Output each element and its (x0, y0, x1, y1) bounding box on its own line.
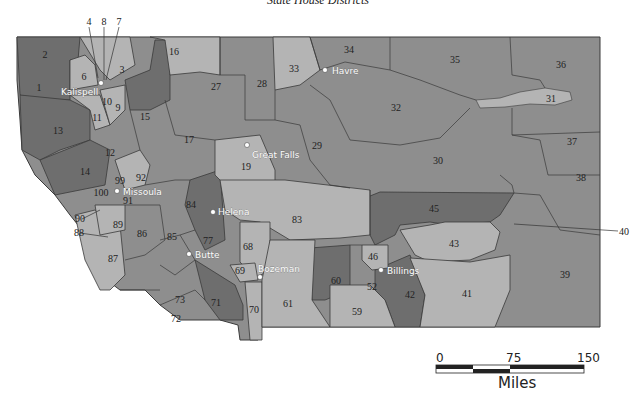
city-label: Havre (332, 66, 359, 76)
district-label: 11 (92, 112, 102, 123)
district-label: 87 (108, 253, 118, 264)
district-label: 77 (203, 235, 213, 246)
district-label: 28 (257, 78, 267, 89)
district-label: 100 (94, 187, 109, 198)
city-label: Great Falls (252, 150, 300, 160)
district-label: 10 (102, 96, 112, 107)
scale-bar: 0 75 150 Miles (436, 351, 600, 392)
district-label: 32 (391, 102, 401, 113)
district-label: 17 (184, 134, 194, 145)
district-label: 12 (105, 147, 115, 158)
district-label: 43 (449, 238, 459, 249)
city-dot (258, 275, 263, 280)
city-label: Kalispell (61, 87, 98, 97)
district-label: 6 (82, 71, 87, 82)
district-label: 38 (576, 172, 586, 183)
district-label: 27 (211, 81, 221, 92)
district-label: 15 (140, 111, 150, 122)
district-label: 59 (352, 306, 362, 317)
district-label: 89 (113, 219, 123, 230)
district-label: 13 (53, 125, 63, 136)
district-label: 31 (546, 93, 556, 104)
city-label: Helena (218, 207, 250, 217)
city-dot (211, 210, 216, 215)
district-label: 35 (450, 54, 460, 65)
scale-tick-label: 75 (506, 351, 521, 365)
district-label: 40 (619, 226, 629, 237)
montana-district-map: 1 2 3 4 6 7 8 9 10 11 12 13 14 15 16 17 … (0, 0, 636, 402)
city-label: Missoula (123, 187, 162, 197)
district-label: 92 (136, 172, 146, 183)
district-label: 41 (462, 288, 472, 299)
city-dot (115, 189, 120, 194)
district-label: 90 (75, 213, 85, 224)
city-label: Butte (195, 250, 220, 260)
district-label: 3 (120, 64, 125, 75)
district-label: 84 (186, 199, 196, 210)
district-label: 1 (37, 82, 42, 93)
district-label: 71 (211, 297, 221, 308)
city-dot (99, 81, 104, 86)
district-label: 7 (117, 16, 122, 27)
district-label: 14 (80, 166, 90, 177)
district-label: 39 (560, 269, 570, 280)
district-label: 33 (289, 63, 299, 74)
scale-tick-label: 0 (436, 351, 444, 365)
scale-tick-label: 150 (577, 351, 600, 365)
district-label: 70 (249, 304, 259, 315)
district-label: 4 (87, 16, 92, 27)
city-label: Billings (387, 266, 420, 276)
scale-segment (436, 365, 473, 369)
district-label: 85 (167, 231, 177, 242)
district-label: 2 (43, 49, 48, 60)
district-label: 83 (292, 214, 302, 225)
scale-segment (473, 369, 510, 373)
city-label: Bozeman (258, 264, 300, 274)
district-label: 99 (115, 175, 125, 186)
district-label: 42 (405, 289, 415, 300)
district-label: 29 (312, 140, 322, 151)
scale-segment (510, 365, 584, 369)
district-label: 34 (344, 44, 354, 55)
district-label: 68 (243, 241, 253, 252)
scale-unit-label: Miles (498, 374, 537, 392)
district-label: 19 (241, 161, 251, 172)
district-label: 9 (116, 102, 121, 113)
city-dot (379, 268, 384, 273)
district-label: 73 (175, 294, 185, 305)
district-41-area (410, 255, 510, 327)
district-label: 52 (367, 281, 377, 292)
city-dot (323, 68, 328, 73)
city-dot (245, 143, 250, 148)
district-label: 60 (331, 275, 341, 286)
district-label: 45 (429, 203, 439, 214)
district-label: 61 (283, 298, 293, 309)
district-label: 36 (556, 59, 566, 70)
district-label: 30 (433, 155, 443, 166)
district-label: 37 (567, 136, 577, 147)
district-label: 72 (171, 313, 181, 324)
district-label: 86 (137, 228, 147, 239)
district-label: 46 (368, 251, 378, 262)
district-label: 88 (74, 227, 84, 238)
city-dot (187, 252, 192, 257)
district-label: 69 (235, 265, 245, 276)
district-label: 16 (169, 46, 179, 57)
district-label: 8 (102, 16, 107, 27)
